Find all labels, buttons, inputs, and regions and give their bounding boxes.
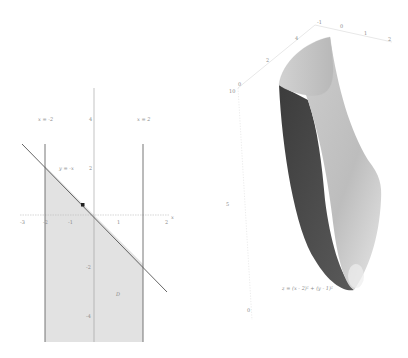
left-axis-tick: 4	[295, 35, 298, 41]
top-axis-tick: 1	[364, 30, 367, 36]
top-axis-tick: 0	[340, 23, 343, 29]
figure-canvas: -3 -2 -1 1 2 x 4 2 -2 -4 x = -2 x = 2 y …	[0, 0, 408, 358]
surface-highlight	[348, 264, 364, 288]
surface-top-cap	[279, 37, 333, 96]
diagonal-label: y = -x	[58, 165, 74, 172]
surface-plot: -1 0 1 2 4 2 0 10 5 0 z = (x - 2)² + (y …	[226, 19, 392, 320]
y-tick-label: 4	[89, 116, 92, 122]
region-plot: -3 -2 -1 1 2 x 4 2 -2 -4 x = -2 x = 2 y …	[20, 88, 174, 342]
y-tick-label: -4	[86, 313, 91, 319]
line-x-2-label: x = 2	[137, 116, 150, 122]
x-tick-label: 1	[117, 219, 120, 225]
vertical-axis-tick: 5	[226, 201, 229, 207]
left-axis-tick: 0	[238, 81, 241, 87]
line-x-neg2-label: x = -2	[38, 116, 53, 122]
x-tick-label: -3	[20, 219, 25, 225]
region-label: D	[115, 291, 120, 297]
x-tick-label: 2	[165, 219, 168, 225]
y-tick-label: 2	[89, 165, 92, 171]
vertical-axis-tick: 10	[229, 88, 235, 94]
x-tick-label: -2	[43, 219, 48, 225]
y-tick-label: -2	[86, 264, 91, 270]
x-tick-label: -1	[68, 219, 73, 225]
axis-vertical	[238, 88, 252, 320]
surface-equation-label: z = (x - 2)² + (y - 1)²	[281, 285, 333, 292]
x-axis-label: x	[171, 214, 174, 220]
top-axis-tick: 2	[388, 36, 391, 42]
point-marker	[81, 203, 85, 207]
left-axis-tick: 2	[266, 57, 269, 63]
top-axis-tick: -1	[317, 19, 322, 25]
vertical-axis-tick: 0	[247, 307, 250, 313]
